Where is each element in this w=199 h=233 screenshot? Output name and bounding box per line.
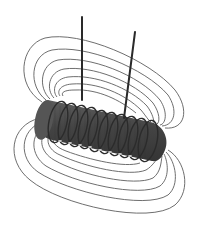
lead-wire-right	[124, 32, 135, 118]
solenoid-field-diagram	[0, 0, 199, 233]
